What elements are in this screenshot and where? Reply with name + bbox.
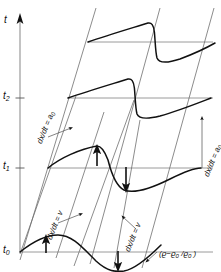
axis-tick-sub-t2: 2: [6, 95, 10, 102]
annotation-density-ratio: (ϱ−ϱ0 /ϱ0 ): [159, 250, 196, 259]
density-ratio-mid: /ϱ: [179, 249, 188, 258]
char-line-6: [74, 100, 134, 266]
char-line-3: [142, 8, 214, 268]
wave-steepening-diagram: [0, 0, 221, 272]
char-line-2: [90, 8, 160, 264]
characteristic-lines-v: [20, 96, 140, 268]
axis-tick-sub-t0: 0: [6, 249, 10, 256]
density-ratio-open: (ϱ−ϱ: [159, 249, 176, 258]
axis-tick-sub-t1: 1: [6, 165, 10, 172]
axis-tick-label-t0: t0: [3, 245, 10, 256]
baselines-group: [20, 42, 213, 252]
waveform-t1: [48, 146, 201, 191]
axis-tick-label-t2: t2: [3, 91, 10, 102]
axis-tick-label-t1: t1: [3, 161, 10, 172]
figure-root: t t2 t1 t0 dx/dt = a0 dx/dt = a0 dx/dt =…: [0, 0, 221, 272]
axis-tick-label-t: t: [4, 15, 7, 25]
density-ratio-close: ): [191, 249, 196, 258]
time-axis-group: [16, 13, 25, 252]
axis-tick-base-t: t: [4, 14, 7, 25]
waveform-t0: [20, 235, 161, 271]
